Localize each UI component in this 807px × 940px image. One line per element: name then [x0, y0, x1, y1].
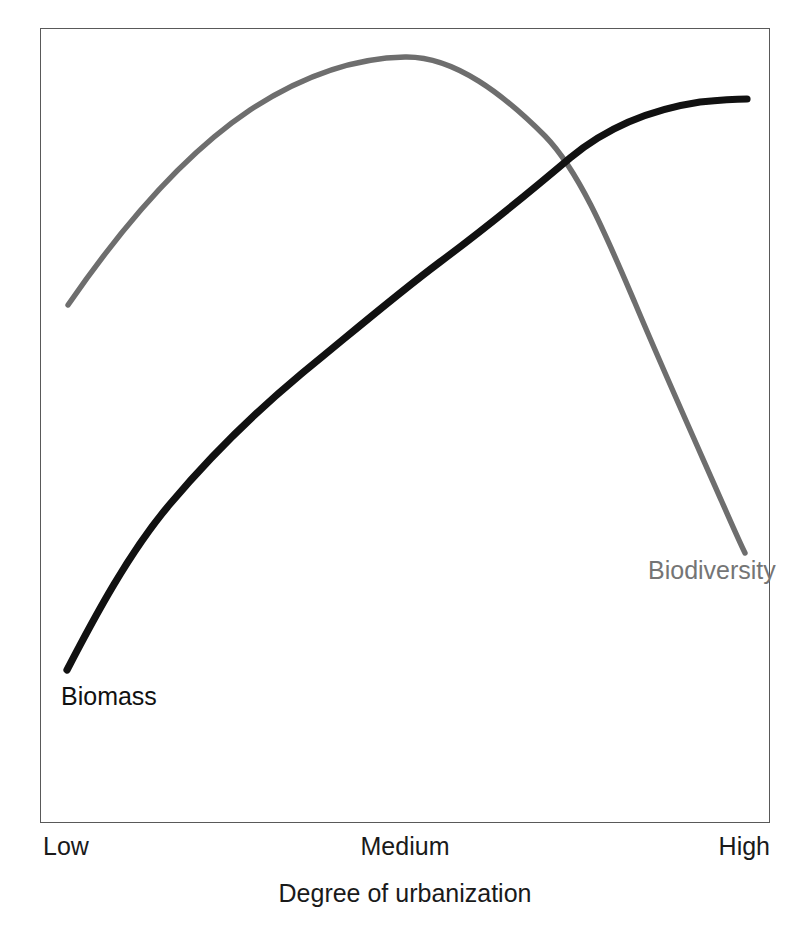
x-axis-title: Degree of urbanization [40, 878, 770, 908]
x-axis-tick-labels: Low Medium High [40, 831, 770, 863]
x-tick-label-medium: Medium [361, 831, 450, 861]
series-label-biodiversity: Biodiversity [648, 555, 776, 585]
x-tick-label-high: High [719, 831, 770, 861]
x-tick-label-low: Low [43, 831, 89, 861]
chart-figure: Biomass Biodiversity Low Medium High Deg… [0, 0, 807, 940]
series-label-biomass: Biomass [61, 681, 157, 711]
